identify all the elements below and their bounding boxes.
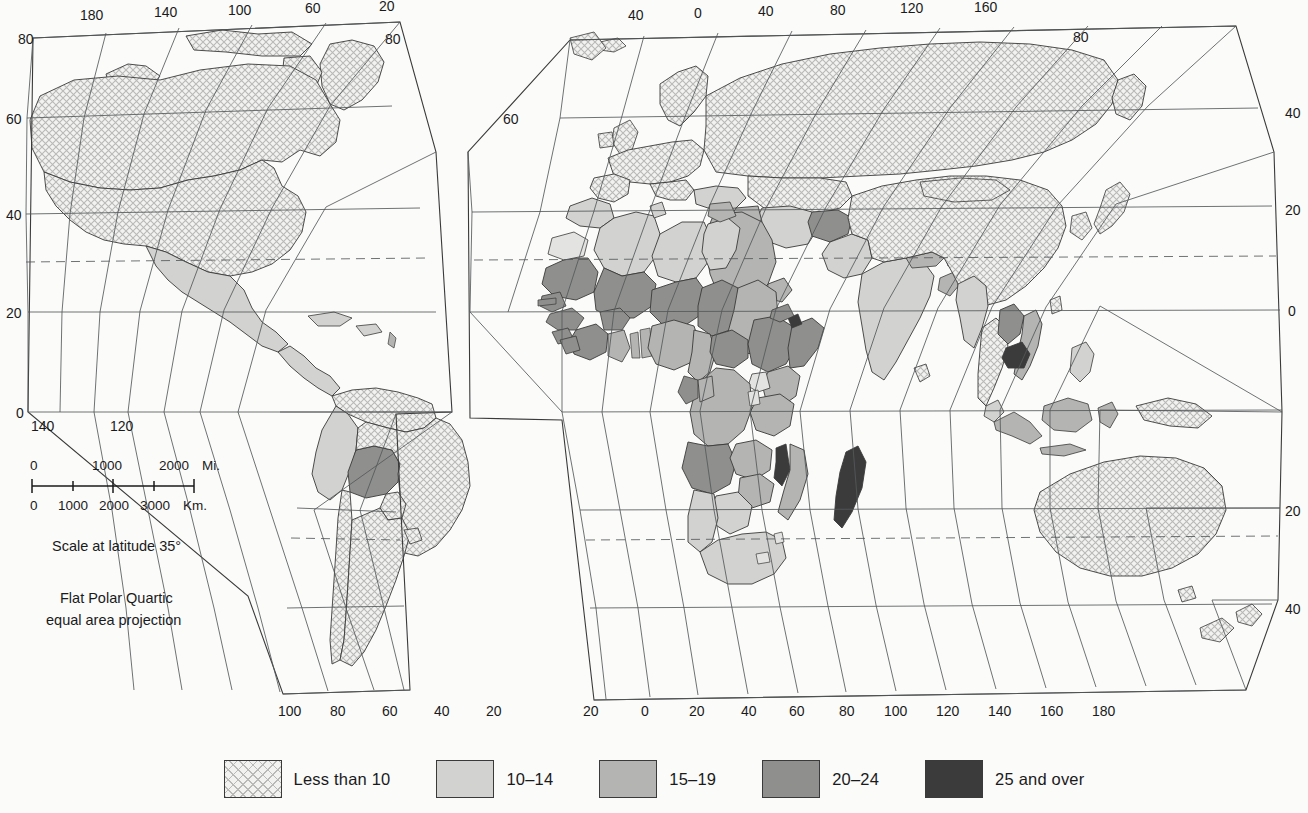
map-legend: Less than 10 10–14 15–19 20–24 25 and ov…	[0, 748, 1308, 810]
axis-label-west-bot-2: 60	[382, 703, 398, 719]
axis-label-west-top-0: 180	[80, 7, 104, 23]
region-philippines	[1070, 342, 1094, 382]
region-borneo	[1042, 398, 1092, 432]
axis-label-west-lat-60: 60	[6, 111, 22, 127]
axis-label-west-eq-120: 120	[110, 418, 134, 434]
region-tasmania	[1178, 586, 1196, 602]
region-mauritania	[542, 258, 598, 300]
legend-item: 25 and over	[925, 760, 1084, 798]
region-australia	[1034, 456, 1226, 576]
axis-label-east-bot-6: 100	[884, 703, 908, 719]
scale-mi-tick-1: 1000	[92, 458, 122, 473]
axis-label-east-bot-3: 40	[741, 703, 757, 719]
axis-label-east-right-2: 0	[1288, 303, 1296, 319]
axis-label-east-bot-0: 20	[583, 703, 599, 719]
scale-mi-unit: Mi.	[202, 458, 220, 473]
map-figure: 180 140 100 60 20 80 80 60 40 20 0 140 1…	[0, 0, 1308, 813]
axis-label-east-lat80-right: 80	[1073, 29, 1089, 45]
region-new-guinea	[1136, 398, 1212, 428]
projection-note-line2: equal area projection	[46, 612, 181, 628]
axis-label-west-bot-4: 20	[486, 703, 502, 719]
legend-label-3: 20–24	[832, 770, 879, 789]
axis-label-west-lat-40: 40	[6, 207, 22, 223]
scale-km-tick-2: 2000	[99, 498, 129, 513]
axis-label-east-top-3: 80	[830, 2, 846, 18]
axis-label-east-bot-5: 80	[839, 703, 855, 719]
scale-km-tick-1: 1000	[58, 498, 88, 513]
axis-label-east-right-0: 40	[1285, 105, 1301, 121]
region-iberia	[590, 174, 630, 202]
region-swaziland	[774, 532, 784, 544]
legend-swatch-1	[436, 760, 494, 798]
region-hispaniola	[356, 324, 382, 336]
legend-label-0: Less than 10	[294, 770, 391, 789]
scale-km-tick-0: 0	[30, 498, 38, 513]
legend-item: Less than 10	[224, 760, 391, 798]
axis-label-west-bot-3: 40	[434, 703, 450, 719]
region-madagascar	[834, 446, 866, 528]
axis-label-west-lat80-right: 80	[385, 31, 401, 47]
region-india	[858, 258, 934, 380]
region-scandinavia	[660, 66, 708, 126]
axis-label-west-lat80-left: 80	[18, 31, 34, 47]
scale-km-unit: Km.	[183, 498, 207, 513]
region-sumatra	[994, 412, 1042, 444]
region-central-america	[278, 346, 340, 396]
region-sulawesi	[1098, 402, 1118, 428]
region-java	[1040, 444, 1086, 456]
scale-bar: 0 1000 2000 Mi. 0 1000 2000 3000 Km. Sca…	[30, 458, 220, 628]
region-western-sahara	[548, 232, 588, 260]
legend-label-2: 15–19	[669, 770, 716, 789]
region-gabon	[678, 376, 698, 404]
region-cuba	[308, 312, 352, 326]
region-lesser-antilles	[388, 332, 396, 348]
axis-label-east-bot-1: 0	[641, 703, 649, 719]
scale-mi-tick-2: 2000	[159, 458, 189, 473]
legend-label-4: 25 and over	[995, 770, 1084, 789]
region-mali	[594, 268, 656, 318]
axis-label-east-bot-9: 160	[1040, 703, 1064, 719]
region-zambia	[730, 440, 772, 480]
region-new-zealand	[1236, 604, 1262, 626]
region-italy-balkans	[650, 180, 694, 200]
axis-label-east-bot-10: 180	[1092, 703, 1116, 719]
axis-label-west-top-4: 20	[379, 0, 395, 14]
axis-label-west-lat-0: 0	[16, 405, 24, 421]
region-korea	[1070, 212, 1092, 240]
region-rwanda-burundi	[748, 390, 760, 406]
scale-mi-tick-0: 0	[30, 458, 38, 473]
legend-swatch-0	[224, 760, 282, 798]
axis-label-east-lat-60: 60	[503, 111, 519, 127]
legend-swatch-2	[599, 760, 657, 798]
axis-label-east-top-2: 40	[758, 3, 774, 19]
axis-label-east-right-3: 20	[1285, 503, 1301, 519]
region-new-zealand-south	[1200, 618, 1234, 642]
region-angola	[682, 442, 736, 494]
legend-swatch-4	[925, 760, 983, 798]
axis-label-east-bot-2: 20	[689, 703, 705, 719]
scale-caption: Scale at latitude 35°	[52, 538, 181, 554]
axis-label-east-bot-7: 120	[936, 703, 960, 719]
axis-label-west-eq-140: 140	[31, 418, 55, 434]
region-japan	[1094, 182, 1130, 234]
axis-label-east-right-4: 40	[1285, 601, 1301, 617]
axis-label-west-top-1: 140	[154, 4, 178, 20]
region-laos	[998, 304, 1024, 344]
axis-label-east-top-5: 160	[974, 0, 998, 15]
axis-label-east-top-4: 120	[900, 0, 924, 16]
world-map-svg: 180 140 100 60 20 80 80 60 40 20 0 140 1…	[0, 0, 1308, 813]
axis-label-west-lat-20: 20	[6, 305, 22, 321]
axis-label-west-bot-1: 80	[330, 703, 346, 719]
axis-label-west-top-2: 100	[228, 2, 252, 18]
legend-label-1: 10–14	[506, 770, 553, 789]
region-lesotho	[756, 552, 770, 564]
projection-note-line1: Flat Polar Quartic	[60, 590, 173, 606]
axis-label-east-bot-8: 140	[988, 703, 1012, 719]
region-togo	[630, 332, 640, 358]
axis-label-east-right-1: 20	[1285, 202, 1301, 218]
axis-label-east-bot-4: 60	[789, 703, 805, 719]
legend-item: 15–19	[599, 760, 716, 798]
legend-item: 10–14	[436, 760, 553, 798]
scale-km-tick-3: 3000	[140, 498, 170, 513]
region-arctic-islands	[186, 30, 312, 56]
